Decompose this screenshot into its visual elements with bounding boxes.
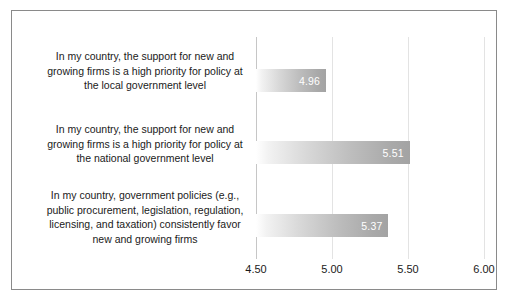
category-label-line: growing firms is a high priority for pol… [34,64,256,79]
x-axis-tick-label: 5.50 [397,263,418,275]
bar-value-label: 4.96 [299,75,320,87]
x-axis-tick-label: 6.00 [473,263,494,275]
category-label-line: licensing, and taxation) consistently fa… [34,217,256,232]
bar-value-label: 5.37 [361,220,382,232]
category-label-national-government: In my country, the support for new andgr… [34,122,256,166]
category-label-line: In my country, government policies (e.g.… [34,188,256,203]
category-label-line: new and growing firms [34,232,256,247]
category-label-government-policies: In my country, government policies (e.g.… [34,188,256,246]
bar-row: 5.37 [256,214,484,237]
category-label-local-government: In my country, the support for new andgr… [34,49,256,93]
category-label-line: public procurement, legislation, regulat… [34,203,256,218]
gridline-6.00 [484,37,485,259]
bar-value-label: 5.51 [383,147,404,159]
plot-area: 4.965.515.37 [256,37,484,259]
category-label-line: In my country, the support for new and [34,122,256,137]
category-label-line: the local government level [34,78,256,93]
x-axis-tick-label: 5.00 [321,263,342,275]
category-label-line: In my country, the support for new and [34,49,256,64]
category-label-line: the national government level [34,151,256,166]
category-label-line: growing firms is a high priority for pol… [34,137,256,152]
x-axis-tick-labels: 4.505.005.506.00 [256,263,484,283]
chart-frame: In my country, the support for new andgr… [11,10,497,290]
bar-row: 5.51 [256,141,484,164]
x-axis-tick-label: 4.50 [245,263,266,275]
bar-row: 4.96 [256,69,484,92]
